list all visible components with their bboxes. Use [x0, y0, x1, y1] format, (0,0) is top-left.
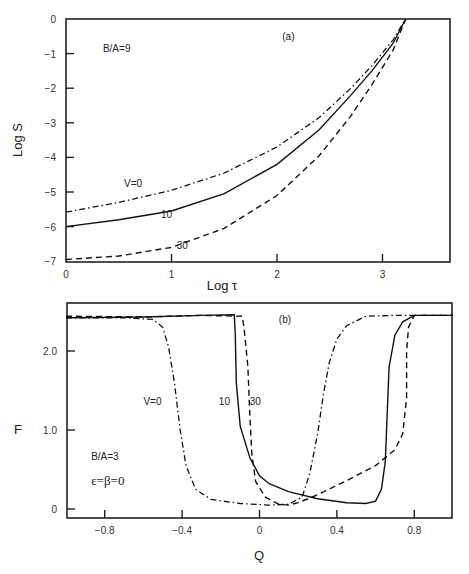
- x-tick-label: −0.8: [95, 525, 115, 536]
- x-tick-label: 0: [63, 269, 69, 280]
- y-tick-label: −3: [45, 118, 57, 129]
- panel-b-f-vs-q: −0.8−0.400.40.801.02.0 (b)V=01030B/A=3ε=…: [14, 303, 453, 563]
- x-tick-label: 1: [169, 269, 175, 280]
- y-tick-label: −4: [45, 152, 57, 163]
- y-tick-label: −5: [45, 187, 57, 198]
- curve-30: [66, 19, 406, 260]
- annotation: (a): [282, 31, 294, 42]
- y-tick-label: −2: [45, 83, 57, 94]
- y-tick-label: 0: [51, 504, 57, 515]
- annotation: 10: [219, 396, 231, 407]
- annotation: 10: [161, 209, 173, 220]
- panel-a-ticks: 01230−1−2−3−4−5−6−7: [45, 14, 386, 280]
- figure: 01230−1−2−3−4−5−6−7 B/A=9(a)V=01030 Log …: [0, 0, 469, 574]
- y-tick-label: 2.0: [43, 346, 57, 357]
- panel-a-curves: [66, 19, 406, 260]
- x-tick-label: −0.4: [172, 525, 192, 536]
- panel-a-frame: [66, 19, 450, 262]
- panel-b-x-axis-label: Q: [254, 548, 264, 563]
- y-tick-label: 1.0: [43, 425, 57, 436]
- panel-a-x-axis-label: Log τ: [207, 278, 238, 293]
- annotation: 30: [177, 240, 189, 251]
- annotation: V=0: [124, 178, 143, 189]
- x-tick-label: 0.4: [330, 525, 344, 536]
- panel-b-y-axis-label: F: [14, 422, 22, 437]
- panel-b-ticks: −0.8−0.400.40.801.02.0: [43, 346, 422, 536]
- annotation: 30: [250, 396, 262, 407]
- annotation: V=0: [143, 396, 162, 407]
- panel-a-log-s-vs-log-tau: 01230−1−2−3−4−5−6−7 B/A=9(a)V=01030 Log …: [10, 14, 450, 293]
- y-tick-label: 0: [50, 14, 56, 25]
- annotation: B/A=9: [103, 43, 131, 54]
- panel-a-y-axis-label: Log S: [10, 123, 25, 157]
- x-tick-label: 0.8: [407, 525, 421, 536]
- annotation: B/A=3: [91, 451, 119, 462]
- panel-b-annotations: (b)V=01030B/A=3ε=β=0: [91, 314, 291, 489]
- y-tick-label: −7: [45, 256, 57, 267]
- annotation: ε=β=0: [91, 473, 124, 488]
- x-tick-label: 3: [380, 269, 386, 280]
- y-tick-label: −6: [45, 222, 57, 233]
- x-tick-label: 2: [274, 269, 280, 280]
- annotation: (b): [279, 314, 291, 325]
- y-tick-label: −1: [45, 49, 57, 60]
- x-tick-label: 0: [257, 525, 263, 536]
